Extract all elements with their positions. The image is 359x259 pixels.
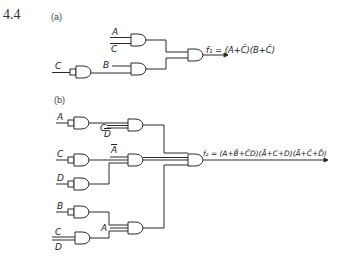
input-C-label: C: [55, 62, 61, 71]
input-A-label-b: A: [57, 113, 63, 122]
output-f1-expression: f₁ = (A+C̄)(B+C̄): [206, 46, 275, 54]
part-b-label: (b): [54, 96, 65, 105]
input-C-label-b3: C: [55, 228, 61, 237]
input-D-label-b3: D: [57, 174, 64, 183]
input-D-bar-label-b1: D: [104, 130, 111, 139]
input-B-label-b: B: [57, 202, 63, 211]
output-f2-expression: f₂ = (A+B̄+C̄D)(Ā+C+D)(Ā+C̄+D̄): [203, 150, 327, 157]
problem-number: 4.4: [3, 8, 21, 22]
input-B-label: B: [103, 61, 109, 70]
logic-circuit-diagram: [0, 0, 359, 259]
part-a-label: (a): [51, 13, 62, 22]
input-A-bar-label-b: A: [111, 146, 117, 155]
part-b-circuit: [52, 117, 328, 244]
figure-canvas: 4.4 (a) A C C B f₁ = (A+C̄)(B+C̄) (b) A …: [0, 0, 359, 259]
input-A-label: A: [112, 28, 118, 37]
input-C-bar-label: C: [111, 45, 117, 54]
input-A-label-b2: A: [101, 224, 107, 233]
part-a-circuit: [52, 34, 228, 78]
input-C-label-b2: C: [57, 150, 63, 159]
input-D-label-b4: D: [55, 243, 62, 252]
